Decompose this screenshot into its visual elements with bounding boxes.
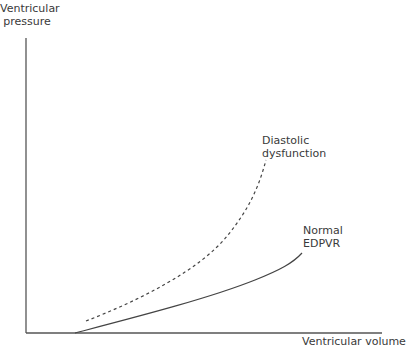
normal-edpvr-curve [75,253,302,333]
y-axis-label-text: Ventricular pressure [0,2,54,28]
diastolic-label-line-1: Diastolic [262,134,326,147]
y-axis-label: Ventricular pressure [0,2,54,28]
x-axis-label: Ventricular volume [302,335,406,345]
normal-edpvr-label: Normal EDPVR [303,224,343,250]
diastolic-label-line-2: dysfunction [262,147,326,160]
diastolic-dysfunction-curve [86,160,266,321]
normal-label-line-1: Normal [303,224,343,237]
diastolic-dysfunction-label: Diastolic dysfunction [262,134,326,160]
normal-label-line-2: EDPVR [303,237,343,250]
